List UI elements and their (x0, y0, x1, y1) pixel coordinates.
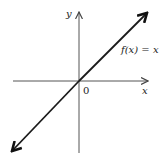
function-graph: y x 0 f(x) = x (0, 0, 166, 163)
function-line-neg (12, 81, 79, 151)
origin-label: 0 (83, 86, 89, 96)
y-axis-label: y (66, 9, 72, 19)
graph-canvas (0, 0, 166, 163)
function-annotation: f(x) = x (121, 45, 159, 55)
x-axis-label: x (142, 86, 148, 96)
